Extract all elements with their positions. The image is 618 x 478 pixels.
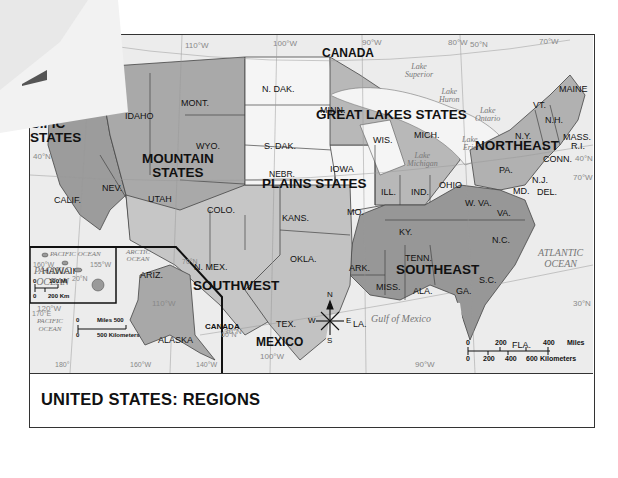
grid-160w-hawaii: 160°W [33, 261, 54, 268]
label-lake-huron: LakeHuron [439, 88, 460, 104]
map-title: UNITED STATES: REGIONS [41, 390, 260, 409]
label-lake-michigan: LakeMichigan [407, 152, 438, 168]
region-southeast: SOUTHEAST [396, 263, 479, 277]
state-wis: WIS. [373, 135, 393, 145]
grid-40n-left: 40°N [33, 152, 51, 161]
label-atlantic-ocean: ATLANTICOCEAN [538, 247, 583, 269]
label-lake-superior: LakeSuperior [405, 63, 433, 79]
label-lake-ontario: LakeOntario [475, 107, 500, 123]
label-arctic-ocean: ARCTICOCEAN [126, 249, 150, 263]
state-wyo: WYO. [196, 141, 220, 151]
hawaii-scale-km: 200 Km [48, 293, 69, 299]
grid-50n-right: 50°N [470, 40, 488, 49]
state-md: MD. [513, 186, 530, 196]
grid-70w-top: 70°W [539, 37, 559, 46]
state-ariz: ARIZ. [140, 270, 163, 280]
state-mich: MICH. [414, 130, 440, 140]
compass-n: N [327, 290, 333, 299]
state-pa: PA. [499, 165, 513, 175]
grid-180: 180° [55, 361, 69, 368]
compass-s: S [327, 336, 332, 345]
state-sdak: S. DAK. [264, 141, 296, 151]
state-ohio: OHIO [439, 180, 462, 190]
state-nj: N.J. [532, 175, 548, 185]
state-minn: MINN. [320, 105, 346, 115]
state-mo: MO. [347, 207, 364, 217]
scale-miles-label: Miles [567, 339, 585, 346]
state-calif: CALIF. [54, 195, 81, 205]
grid-60n-alaska: 60°N [221, 331, 237, 338]
state-va: VA. [497, 208, 511, 218]
state-colo: COLO. [207, 205, 235, 215]
label-mexico: MEXICO [256, 335, 303, 349]
state-utah: UTAH [148, 194, 172, 204]
grid-90w-bottom: 90°W [415, 360, 435, 369]
state-nebr: NEBR. [269, 169, 295, 179]
grid-155w-hawaii: 155°W [90, 261, 111, 268]
alaska-scale-zero-bottom: 0 [76, 332, 79, 338]
label-alaska-pacific-ocean: PACIFICOCEAN [37, 317, 63, 333]
grid-160w-alaska: 160°W [130, 361, 151, 368]
grid-110w-top: 110°W [185, 41, 209, 50]
grid-70w-right: 70°W [573, 173, 593, 182]
scale-km-label: Kilometers [540, 355, 576, 362]
state-tex: TEX. [276, 319, 296, 329]
state-ndak: N. DAK. [262, 84, 295, 94]
hawaii-scale-zero-top: 0 [33, 278, 36, 284]
label-hawaii-pacific-ocean: PACIFIC OCEAN [50, 249, 101, 260]
state-ky: KY. [399, 227, 412, 237]
state-conn: CONN. [543, 154, 572, 164]
scale-km-200: 200 [483, 355, 495, 362]
label-lake-erie: LakeErie [462, 136, 478, 152]
state-ill: ILL. [381, 187, 396, 197]
state-okla: OKLA. [290, 254, 317, 264]
grid-110w-bottom: 110°W [152, 299, 176, 308]
scale-km-600: 600 [526, 355, 538, 362]
alaska-scale-km: 500 Kilometers [97, 332, 140, 338]
grid-90w-top: 90°W [362, 38, 382, 47]
state-sc: S.C. [479, 275, 497, 285]
grid-20n-hawaii: 20°N [72, 275, 88, 282]
grid-100w-bottom: 100°W [260, 352, 284, 361]
state-del: DEL. [537, 187, 557, 197]
scale-km-400: 400 [505, 355, 517, 362]
compass-e: E [346, 316, 351, 325]
grid-170e: 170°E [32, 310, 51, 317]
region-southwest: SOUTHWEST [193, 279, 279, 293]
scale-miles-200: 200 [495, 339, 507, 346]
page-curl-decoration [0, 0, 140, 140]
state-ind: IND. [411, 187, 429, 197]
grid-40n-right: 40°N [575, 154, 593, 163]
region-plains-states: PLAINS STATES [262, 177, 367, 191]
state-ri: R.I. [571, 141, 585, 151]
scale-km-0: 0 [466, 355, 470, 362]
state-miss: MISS. [376, 282, 401, 292]
region-mountain-states: MOUNTAINSTATES [142, 152, 214, 180]
grid-30n-right: 30°N [573, 299, 591, 308]
state-maine: MAINE [559, 84, 588, 94]
state-vt: VT. [533, 100, 546, 110]
state-kans: KANS. [282, 213, 309, 223]
state-ala: ALA. [413, 286, 433, 296]
state-ny: N.Y. [515, 131, 531, 141]
state-ark: ARK. [349, 263, 370, 273]
label-canada: CANADA [322, 46, 374, 60]
hawaii-scale-zero-bottom: 0 [33, 293, 36, 299]
state-fla: FLA. [512, 340, 531, 350]
state-nev: NEV. [102, 183, 122, 193]
alaska-scale-zero-top: 0 [76, 317, 79, 323]
scale-miles-400: 400 [543, 339, 555, 346]
grid-140w-alaska: 140°W [196, 361, 217, 368]
scale-miles-0: 0 [466, 339, 470, 346]
state-nc: N.C. [492, 235, 510, 245]
state-mont: MONT. [181, 98, 209, 108]
grid-70n-alaska: 70°N [182, 258, 198, 265]
label-gulf-of-mexico: Gulf of Mexico [371, 313, 431, 324]
grid-80w-top: 80°W [448, 38, 468, 47]
hawaii-scale-mi: 100 MI [49, 278, 67, 284]
state-wva: W. VA. [465, 198, 492, 208]
caption-bar: UNITED STATES: REGIONS [30, 373, 593, 427]
region-northeast: NORTHEAST [475, 139, 559, 153]
state-ga: GA. [456, 286, 472, 296]
state-la: LA. [353, 319, 367, 329]
